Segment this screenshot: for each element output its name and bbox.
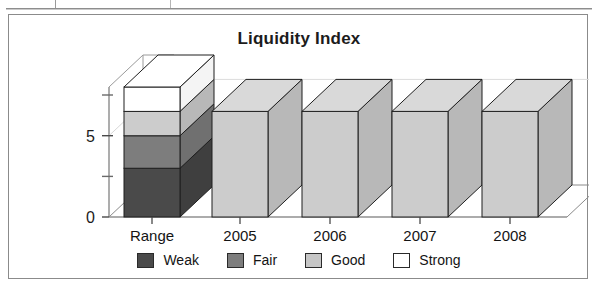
bar-2005-front[interactable] [212, 111, 268, 217]
x-axis-label-2006: 2006 [313, 227, 346, 244]
legend-swatch-strong [393, 253, 410, 268]
legend-item-weak[interactable]: Weak [137, 252, 199, 268]
bar-group-2005[interactable] [212, 79, 302, 224]
legend-label-fair: Fair [253, 252, 277, 268]
y-axis-label-5: 5 [86, 128, 95, 145]
legend-swatch-good [305, 253, 322, 268]
bar-group-2006[interactable] [302, 79, 392, 224]
bar-range-fair-front[interactable] [124, 136, 180, 169]
bar-range-strong-front[interactable] [124, 87, 180, 111]
bar-2007-front[interactable] [392, 111, 448, 217]
x-axis-label-2005: 2005 [223, 227, 256, 244]
legend-swatch-fair [227, 253, 244, 268]
legend-item-strong[interactable]: Strong [393, 252, 460, 268]
partial-table-fragment [0, 0, 599, 11]
bar-group-2007[interactable] [392, 79, 482, 224]
chart-legend: Weak Fair Good Strong [9, 252, 589, 268]
x-axis-label-2008: 2008 [493, 227, 526, 244]
bar-2008-front[interactable] [482, 111, 538, 217]
chart-plot-area: 0 5 [9, 15, 589, 280]
bar-range-good-front[interactable] [124, 111, 180, 135]
x-axis-label-range: Range [130, 227, 174, 244]
y-axis-label-0: 0 [86, 209, 95, 226]
bar-range-weak-front[interactable] [124, 168, 180, 217]
chart-container: Liquidity Index 0 5 [8, 14, 588, 279]
bar-group-range[interactable] [124, 55, 214, 224]
legend-swatch-weak [137, 253, 154, 268]
legend-item-fair[interactable]: Fair [227, 252, 277, 268]
table-bottom-border-shadow [6, 9, 592, 10]
bar-2006-front[interactable] [302, 111, 358, 217]
legend-label-good: Good [331, 252, 365, 268]
x-axis-label-2007: 2007 [403, 227, 436, 244]
legend-item-good[interactable]: Good [305, 252, 365, 268]
bar-group-2008[interactable] [482, 79, 572, 224]
legend-label-strong: Strong [419, 252, 460, 268]
legend-label-weak: Weak [163, 252, 199, 268]
